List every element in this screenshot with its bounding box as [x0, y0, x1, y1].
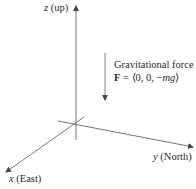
z-axis-label: z (up) [44, 3, 68, 14]
x-axis-label: x (East) [9, 174, 41, 185]
force-title: Gravitational force [114, 60, 194, 71]
y-axis [58, 121, 193, 147]
y-label-text: (North) [158, 151, 192, 162]
force-equals: = ⟨0, 0, − [120, 72, 162, 83]
x-label-text: (East) [14, 173, 42, 184]
force-component: mg [163, 72, 176, 83]
force-equation: F = ⟨0, 0, −mg⟩ [114, 73, 179, 84]
force-close: ⟩ [175, 72, 179, 83]
z-label-text: (up) [48, 2, 68, 13]
y-axis-label: y (North) [153, 152, 192, 163]
x-axis [6, 117, 84, 172]
